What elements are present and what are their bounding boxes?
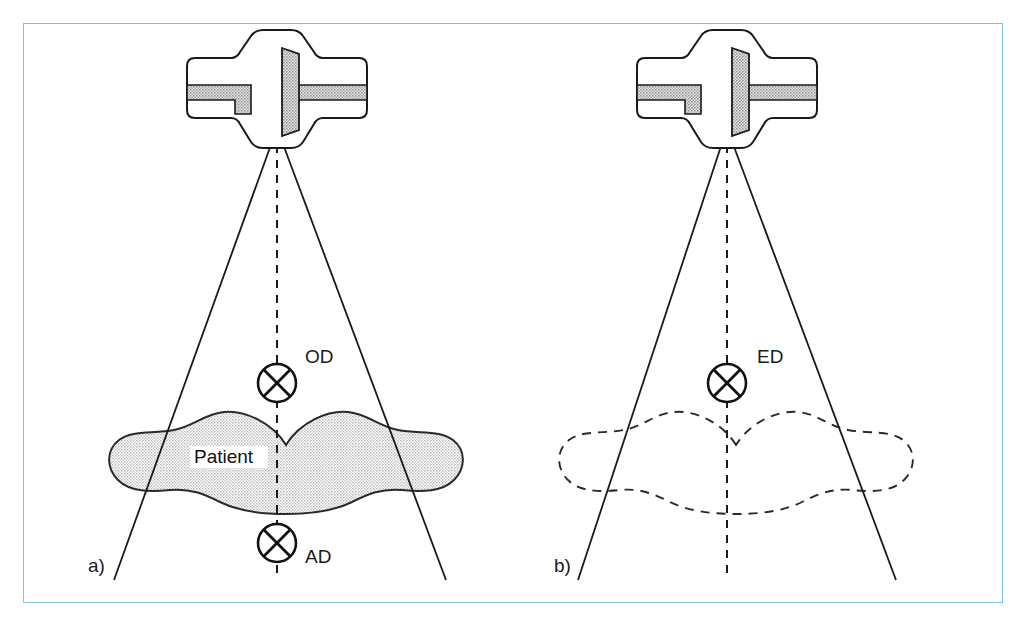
panel-label-a: a) <box>88 555 105 576</box>
x-ray-tube-a <box>187 30 367 148</box>
patient-body-outline <box>559 412 913 514</box>
panel-label-b: b) <box>554 555 571 576</box>
ad-label: AD <box>305 546 331 567</box>
figure-root: OD AD Patient a) <box>0 0 1026 628</box>
panel-a: OD AD Patient a) <box>88 30 463 580</box>
figure-canvas: OD AD Patient a) <box>0 0 1026 628</box>
effective-dose-marker-b <box>708 364 746 402</box>
x-ray-tube-b <box>637 30 817 148</box>
entrance-dose-marker-a <box>258 364 296 402</box>
beam-edge-right-b <box>727 128 896 580</box>
patient-body-filled <box>109 412 463 514</box>
od-label: OD <box>305 346 334 367</box>
patient-label: Patient <box>194 446 254 467</box>
panel-b: ED b) <box>554 30 913 580</box>
exit-dose-marker-a <box>258 524 296 562</box>
ed-label: ED <box>757 346 783 367</box>
